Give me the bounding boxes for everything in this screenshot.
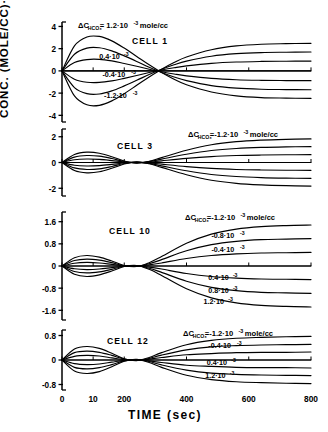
y-tick-label: -0.8 [42,285,57,294]
curve-label: -1.2·10-3 [104,90,137,100]
curve-label: 1.2·10-3 [204,296,233,306]
curve-label-exponent: -3 [240,230,245,236]
panel-header-formula: ΔCHCO₃=-1.2·10-3 mole/cc [185,212,275,223]
curve-label-text: -1.2·10 [104,91,127,100]
curve-label-text: 1.2·10 [204,297,224,306]
y-axis-title-text: CONC. (MOLE/CC) [0,4,10,118]
curve-label-exponent: -3 [240,244,245,250]
curve-label-text: -0.4·10 [211,245,234,254]
panel-header-formula: ΔCHCO₃=-1.2·10-3 mole/cc [188,129,278,140]
curve-label: 0.4·10-3 [207,357,236,367]
curve-label-exponent: -3 [230,370,235,376]
curve-label-exponent: -3 [233,285,238,291]
panel-title: CELL 12 [107,336,149,346]
header-exponent: -3 [240,212,245,218]
header-exponent: -3 [238,328,243,334]
curve-label-text: 0.4·10 [208,273,228,282]
curve-0.4e-3 [62,266,311,280]
y-tick-label: 0 [51,262,56,271]
header-unit: mole/cc [245,329,273,338]
curve-label: -0.4·10-3 [208,340,241,350]
x-tick-label: 800 [304,394,318,404]
header-unit: mole/cc [140,21,168,30]
header-value: =-1.2·10 [207,213,236,222]
header-exponent: -3 [133,20,138,26]
y-tick-label: 0 [51,67,56,76]
x-tick-label: 0 [60,394,65,404]
curve-label-exponent: -3 [237,340,242,346]
y-tick-label: -1.6 [42,307,57,316]
header-value: =-1.2·10 [210,130,239,139]
header-unit: mole/cc [250,130,278,139]
y-tick-label: -4 [49,112,57,121]
y-axis-title: CONC. (MOLE/CC)· 106 [0,0,10,118]
y-tick-label: 0 [51,159,56,168]
panel-cell-1: 420-2-4CELL 1ΔCHCO₃= 1.2·10-3 mole/cc0.4… [49,20,311,122]
curve-0.4e-3 [62,360,311,368]
x-tick-label: 600 [242,394,256,404]
panel-cell-10: 1.60.80-0.8-1.6CELL 10ΔCHCO₃=-1.2·10-3 m… [42,212,311,320]
curve-label-text: 0.8·10 [208,286,228,295]
curve-label: -0.8·10-3 [211,230,244,240]
figure-container: 420-2-4CELL 1ΔCHCO₃= 1.2·10-3 mole/cc0.4… [0,0,328,432]
y-tick-label: 0.8 [45,332,57,341]
header-exponent: -3 [243,129,248,135]
curve-label-text: 1.2·10 [205,371,225,380]
multi-panel-plot: 420-2-4CELL 1ΔCHCO₃= 1.2·10-3 mole/cc0.4… [0,0,328,432]
curve-label-exponent: -3 [233,272,238,278]
curve-label: 0.8·10-3 [208,285,237,295]
y-axis-title-mult: · 10 [0,0,10,4]
y-tick-label: -2 [49,90,57,99]
curve-label-exponent: -3 [133,90,138,96]
y-tick-label: 2 [51,45,56,54]
x-tick-label: 200 [117,394,131,404]
panel-title: CELL 1 [132,36,168,46]
curve-label: -0.4·10-3 [102,69,135,79]
x-tick-label: 10 [88,394,98,404]
x-axis-title: TIME (sec) [128,408,202,422]
panel-header-formula: ΔCHCO₃= 1.2·10-3 mole/cc [78,20,168,31]
curve-label: 0.4·10-3 [208,272,237,282]
panel-title: CELL 3 [117,141,153,151]
y-tick-label: 0.8 [45,240,57,249]
curve-label: 1.2·10-3 [205,370,234,380]
curve-label-text: -0.4·10 [102,70,125,79]
curve-label-text: 0.4·10 [99,52,119,61]
y-tick-label: 1.6 [45,218,57,227]
panel-cell-12: 0.80-0.8CELL 12ΔCHCO₃=-1.2·10-3 mole/cc-… [42,328,311,390]
curve-label-text: 0.4·10 [207,358,227,367]
y-tick-label: -2 [49,185,57,194]
x-tick-label: 400 [180,394,194,404]
x-axis-tick-labels: 010200400600800 [60,394,319,404]
curve-label-exponent: -3 [131,69,136,75]
y-tick-label: 0 [51,356,56,365]
curve-label-exponent: -3 [124,51,129,57]
curve-label: 0.4·10-3 [99,51,128,61]
y-tick-label: -0.8 [42,381,57,390]
y-tick-label: 4 [51,23,56,32]
panel-title: CELL 10 [109,226,151,236]
curve-1.2e-3 [62,359,311,383]
curve-label: -0.4·10-3 [211,244,244,254]
curve-label-text: -0.4·10 [208,341,231,350]
curve-label-exponent: -3 [231,357,236,363]
curve-label-exponent: -3 [228,296,233,302]
header-unit: mole/cc [247,213,275,222]
panel-header-formula: ΔCHCO₃=-1.2·10-3 mole/cc [183,328,273,339]
header-value: =-1.2·10 [205,329,234,338]
panel-cell-3: 20-2CELL 3ΔCHCO₃=-1.2·10-3 mole/cc [49,129,311,196]
header-value: = 1.2·10 [100,21,128,30]
curve-label-text: -0.8·10 [211,231,234,240]
curve--0.4e-3 [62,61,311,83]
y-tick-label: 2 [51,133,56,142]
